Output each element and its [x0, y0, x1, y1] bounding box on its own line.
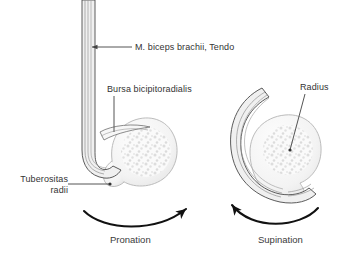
trabecular-bone-right [263, 125, 313, 175]
label-tuberositas-radii: Tuberositas radii [8, 174, 68, 196]
caption-pronation: Pronation [110, 234, 151, 245]
leader-radius-dot [288, 148, 291, 151]
pronation-view [82, 0, 186, 227]
supination-view [231, 88, 322, 224]
pronation-arrow [84, 209, 186, 227]
diagram-canvas [0, 0, 352, 258]
label-biceps-tendon: M. biceps brachii, Tendo [135, 42, 234, 53]
label-tuberositas-radii-line2: radii [8, 185, 68, 196]
caption-supination: Supination [258, 234, 303, 245]
trabecular-bone-left [121, 127, 171, 177]
label-tuberositas-radii-line1: Tuberositas [8, 174, 68, 185]
supination-arrow [232, 205, 318, 224]
label-radius: Radius [300, 82, 329, 93]
anatomy-figure: M. biceps brachii, Tendo Bursa bicipitor… [0, 0, 352, 258]
label-bursa-bicipitoradialis: Bursa bicipitoradialis [107, 84, 192, 95]
leader-tuberositas-dot [108, 182, 111, 185]
